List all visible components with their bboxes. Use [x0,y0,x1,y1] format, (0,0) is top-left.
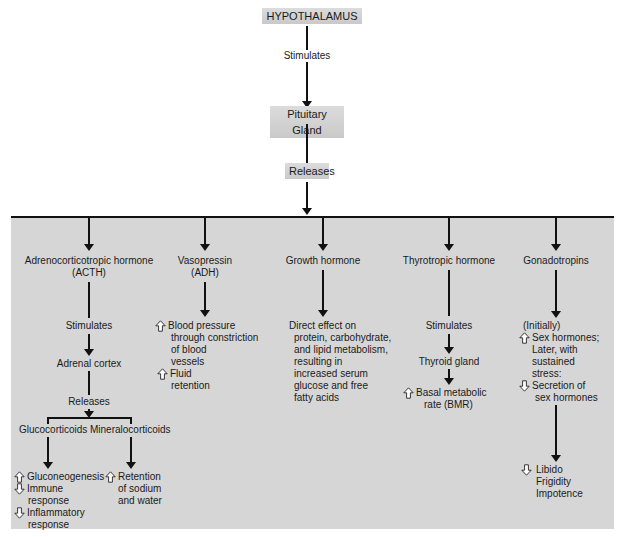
connector-line [88,282,90,318]
effect-text: and water [105,495,162,507]
effect-text: Later, with [519,344,599,356]
arrowhead [444,244,454,251]
decrease-arrow-icon [519,380,530,392]
connector-line [555,405,557,457]
effect-text: retention [155,380,258,392]
arrowhead [551,455,561,462]
effect-text: rate (BMR) [403,399,487,411]
vasopressin-abbrev: (ADH) [165,267,245,279]
thyrotropic-title: Thyrotropic hormone [394,255,504,267]
connector-line [306,84,308,104]
effect-text: glucose and free [289,380,391,392]
effect-text: Libido [534,464,563,476]
arrowhead [302,208,312,215]
effect-text: fatty acids [289,392,391,404]
acth-title: Adrenocorticotropic hormone [20,255,158,267]
branch-bar [47,417,132,419]
growth-hormone-effects: Direct effect on protein, carbohydrate, … [289,320,391,404]
arrowhead [318,244,328,251]
vasopressin-title: Vasopressin [165,255,245,267]
arrowhead [200,244,210,251]
increase-arrow-icon [519,332,530,344]
tsh-stimulates: Stimulates [414,320,484,332]
gonadotropins-title: Gonadotropins [515,255,597,267]
effect-text: Basal metabolic [416,387,487,399]
vasopressin-effects: Blood pressure through constriction of b… [155,320,258,392]
thyroid-gland-label: Thyroid gland [409,356,489,368]
arrowhead [318,310,328,317]
arrowhead [126,462,136,469]
hypothalamus-box: HYPOTHALAMUS [262,8,362,24]
stimulates-label: Stimulates [270,50,344,62]
increase-arrow-icon [157,368,168,380]
effect-text: Impotence [521,488,583,500]
arrowhead [551,311,561,318]
effect-text: of blood [155,344,258,356]
decrease-arrow-icon [14,507,25,519]
arrowhead [551,244,561,251]
connector-line [204,282,206,312]
increase-arrow-icon [155,320,166,332]
glucocorticoid-effects: Gluconeogenesis Immune response Inflamma… [14,471,104,531]
connector-line [306,124,308,168]
effect-text: sex hormones [519,392,599,404]
arrowhead [84,244,94,251]
glucocorticoids-label: Glucocorticoids [18,424,80,436]
effect-text: through constriction [155,332,258,344]
acth-abbrev: (ACTH) [20,267,158,279]
connector-line [204,218,206,246]
effect-text: and lipid metabolism, [289,344,391,356]
effect-text: sustained [519,356,599,368]
connector-line [555,218,557,246]
connector-line [88,371,90,395]
growth-hormone-title: Growth hormone [276,255,370,267]
connector-line [322,218,324,246]
effect-text: Retention [118,471,161,483]
arrowhead [84,349,94,356]
effect-text: Blood pressure [168,320,235,332]
effect-text: response [14,519,104,531]
effect-text: Immune [27,483,63,495]
arrowhead [444,378,454,385]
effect-text: Inflammatory [27,507,85,519]
connector-line [130,437,132,464]
thyroid-effects: Basal metabolic rate (BMR) [403,387,487,411]
distribution-line [11,216,614,218]
connector-line [555,270,557,313]
arrowhead [444,347,454,354]
effect-text: Secretion of [532,380,585,392]
mineralocorticoid-effects: Retention of sodium and water [105,471,162,507]
connector-line [88,218,90,246]
mineralocorticoids-label: Mineralocorticoids [89,424,169,436]
effect-text: response [14,495,104,507]
arrowhead [43,462,53,469]
effect-text: of sodium [105,483,162,495]
connector-line [448,218,450,246]
effect-text: Direct effect on [289,320,391,332]
increase-arrow-icon [14,471,25,483]
adrenal-cortex-label: Adrenal cortex [44,358,134,370]
effect-text: Sex hormones; [532,332,599,344]
releases-box: Releases [285,163,329,179]
acth-releases: Releases [58,396,120,408]
effect-text: increased serum [289,368,391,380]
gonadotropin-effects: (Initially) Sex hormones; Later, with su… [519,320,599,404]
effect-text: Frigidity [521,476,583,488]
effect-text: Gluconeogenesis [27,471,104,483]
connector-line [448,270,450,316]
effect-text: protein, carbohydrate, [289,332,391,344]
acth-stimulates: Stimulates [50,320,128,332]
connector-line [322,270,324,312]
effect-text: Fluid [170,368,192,380]
effect-text: (Initially) [519,320,599,332]
decrease-arrow-icon [14,483,25,495]
increase-arrow-icon [403,387,414,399]
connector-line [47,437,49,464]
decrease-arrow-icon [521,464,532,476]
effect-text: stress: [519,368,599,380]
effect-text: vessels [155,356,258,368]
effect-text: resulting in [289,356,391,368]
increase-arrow-icon [105,471,116,483]
arrowhead [200,310,210,317]
gonadotropin-late-effects: Libido Frigidity Impotence [521,464,583,500]
